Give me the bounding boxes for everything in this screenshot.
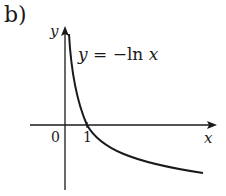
equation-label: y = −ln x xyxy=(78,44,158,64)
graph xyxy=(0,0,226,196)
x-axis-label: x xyxy=(204,129,212,147)
figure: b) y y = −ln x 0 1 x xyxy=(0,0,226,196)
tick-label-1: 1 xyxy=(83,129,92,145)
origin-label: 0 xyxy=(51,129,60,145)
y-axis-label: y xyxy=(50,22,58,40)
